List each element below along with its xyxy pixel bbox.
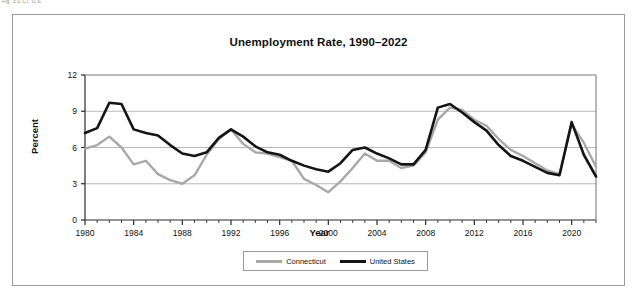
x-axis-tick-label: 1980: [76, 228, 95, 238]
legend-swatch-connecticut: [256, 260, 282, 263]
x-axis-tick-label: 2000: [319, 228, 338, 238]
x-axis-tick-label: 2016: [514, 228, 533, 238]
x-axis-tick-label: 2008: [416, 228, 435, 238]
line-chart: 0369121980198419881992199620002004200820…: [13, 15, 626, 287]
y-axis-tick-label: 3: [72, 179, 77, 189]
figure-frame: Unemployment Rate, 1990–2022 Percent Yea…: [12, 14, 625, 286]
x-axis-tick-label: 1992: [222, 228, 241, 238]
y-axis-tick-label: 9: [72, 106, 77, 116]
figure-caption-note: Fig. 3-1 CT, U.S.: [2, 0, 42, 4]
chart-legend: Connecticut United States: [243, 251, 428, 271]
y-axis-tick-label: 6: [72, 143, 77, 153]
x-axis-tick-label: 2020: [562, 228, 581, 238]
legend-label-united-states: United States: [370, 257, 415, 266]
legend-entry-united-states: United States: [340, 257, 415, 266]
y-axis-tick-label: 12: [68, 70, 78, 80]
x-axis-tick-label: 1984: [124, 228, 143, 238]
series-line-united-states: [85, 103, 596, 177]
x-axis-tick-label: 1988: [173, 228, 192, 238]
legend-swatch-united-states: [340, 260, 366, 263]
plot-area: 0369121980198419881992199620002004200820…: [13, 15, 626, 287]
x-axis-tick-label: 1996: [270, 228, 289, 238]
x-axis-tick-label: 2012: [465, 228, 484, 238]
y-axis-tick-label: 0: [72, 215, 77, 225]
x-axis-tick-label: 2004: [368, 228, 387, 238]
series-line-connecticut: [85, 108, 596, 193]
legend-entry-connecticut: Connecticut: [256, 257, 326, 266]
legend-label-connecticut: Connecticut: [286, 257, 326, 266]
